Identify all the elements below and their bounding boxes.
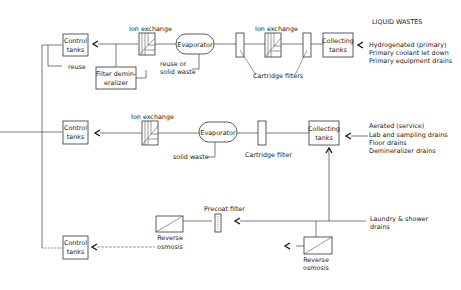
svg-text:reuse or: reuse or bbox=[160, 60, 187, 68]
svg-text:Control: Control bbox=[64, 37, 87, 45]
source-line: Primary coolant let down bbox=[369, 49, 449, 57]
ion-exchange-left-label: Ion exchange bbox=[129, 25, 172, 33]
ion-exchange-left-icon bbox=[139, 33, 155, 55]
svg-text:Control: Control bbox=[64, 124, 87, 132]
reverse-osmosis-left-icon bbox=[156, 216, 183, 232]
reuse-label: reuse bbox=[68, 63, 86, 71]
collecting-tanks-2: Collecting tanks bbox=[308, 121, 340, 145]
svg-text:Reverse: Reverse bbox=[157, 234, 183, 242]
svg-text:osmosis: osmosis bbox=[157, 243, 183, 251]
svg-text:Collecting: Collecting bbox=[308, 125, 340, 133]
ion-exchange-label: Ion exchange bbox=[131, 113, 174, 121]
row-service: Control tanks Ion exchange Evaporator so… bbox=[63, 113, 448, 161]
cartridge-filter-1b bbox=[303, 33, 311, 57]
svg-text:tanks: tanks bbox=[67, 248, 85, 256]
arrow-left-icon bbox=[358, 42, 363, 48]
svg-text:osmosis: osmosis bbox=[303, 264, 329, 272]
arrow-left-icon bbox=[95, 130, 100, 136]
diagram-title: LIQUID WASTES bbox=[372, 18, 422, 26]
collecting-tanks-1: Collecting tanks bbox=[322, 33, 354, 57]
svg-text:eralizer: eralizer bbox=[104, 79, 128, 87]
reverse-osmosis-right-icon bbox=[304, 237, 332, 254]
svg-text:solid waste: solid waste bbox=[160, 68, 196, 76]
svg-text:tanks: tanks bbox=[67, 46, 85, 54]
arrow-left-icon bbox=[285, 243, 290, 249]
precoat-filter-icon bbox=[215, 214, 221, 232]
cartridge-filter-label: Cartridge filter bbox=[245, 151, 292, 159]
evaporator-1: Evaporator bbox=[176, 34, 214, 54]
ion-exchange-icon bbox=[142, 121, 158, 145]
arrow-left-icon bbox=[93, 41, 98, 47]
svg-text:Evaporator: Evaporator bbox=[200, 129, 236, 137]
svg-text:tanks: tanks bbox=[329, 46, 347, 54]
source-line: Demineralizer drains bbox=[369, 147, 436, 155]
source-line: Hydrogenated (primary) bbox=[369, 41, 447, 49]
source-line: Lab and sampling drains bbox=[369, 131, 448, 139]
source-line: Floor drains bbox=[369, 139, 407, 147]
ion-exchange-right-icon bbox=[265, 33, 281, 57]
arrow-left-icon bbox=[235, 218, 240, 224]
svg-text:Control: Control bbox=[64, 239, 87, 247]
liquid-waste-flow-diagram: LIQUID WASTES Control tanks reuse Filter… bbox=[0, 0, 461, 290]
arrow-left-icon bbox=[92, 244, 97, 250]
ion-exchange-right-label: Ion exchange bbox=[255, 25, 298, 33]
svg-text:Filter demin-: Filter demin- bbox=[96, 70, 136, 78]
precoat-filter-label: Precoat filter bbox=[204, 205, 245, 213]
svg-text:tanks: tanks bbox=[67, 133, 85, 141]
cartridge-filters-label: Cartridge filters bbox=[253, 72, 304, 80]
source-line: Laundry & shower bbox=[370, 215, 429, 223]
svg-text:Collecting: Collecting bbox=[322, 37, 354, 45]
source-line: Primary equipment drains bbox=[369, 57, 453, 65]
svg-text:Reverse: Reverse bbox=[303, 256, 329, 264]
arrow-left-icon bbox=[346, 133, 351, 139]
cartridge-filter-1a bbox=[236, 33, 244, 57]
control-tanks-2: Control tanks bbox=[63, 121, 88, 144]
control-tanks-3: Control tanks bbox=[63, 236, 88, 259]
cartridge-filter-2 bbox=[258, 121, 266, 145]
discharge-manifold bbox=[0, 45, 62, 248]
filter-demineralizer: Filter demin- eralizer bbox=[96, 67, 136, 89]
svg-text:Evaporator: Evaporator bbox=[177, 41, 213, 49]
source-line: Aerated (service) bbox=[369, 122, 424, 130]
source-line: drains bbox=[370, 223, 390, 231]
solid-waste-label: solid waste bbox=[173, 153, 209, 161]
evaporator-2: Evaporator bbox=[199, 122, 237, 142]
control-tanks-1: Control tanks bbox=[63, 34, 88, 56]
row-laundry: Control tanks Reverse osmosis Precoat fi… bbox=[63, 148, 429, 272]
svg-text:tanks: tanks bbox=[315, 134, 333, 142]
row-primary: Control tanks reuse Filter demin- eraliz… bbox=[63, 25, 453, 89]
